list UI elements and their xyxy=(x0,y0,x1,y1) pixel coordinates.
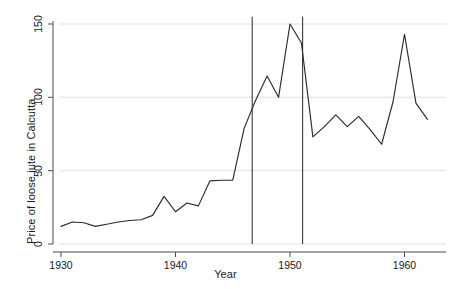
y-tick-label-150: 150 xyxy=(32,15,44,33)
axis-lines xyxy=(53,21,446,252)
data-series-lines xyxy=(61,24,427,226)
y-tick-label-0: 0 xyxy=(32,241,44,247)
x-tick-label-1930: 1930 xyxy=(49,259,72,271)
vertical-reference-lines xyxy=(252,17,302,244)
axis-tick-marks xyxy=(48,24,405,257)
chart-figure: Price of loose jute in Calcutta Year 0 5… xyxy=(0,0,451,289)
x-tick-label-1940: 1940 xyxy=(164,259,187,271)
y-tick-label-100: 100 xyxy=(32,89,44,107)
x-tick-label-1960: 1960 xyxy=(393,259,416,271)
x-tick-label-1950: 1950 xyxy=(278,259,301,271)
line-chart-plot xyxy=(0,0,451,289)
y-tick-label-50: 50 xyxy=(32,165,44,177)
